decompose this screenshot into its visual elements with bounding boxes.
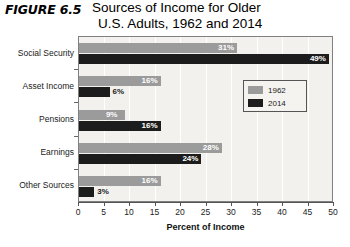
x-axis-tick-label: 40 bbox=[270, 207, 294, 217]
y-axis-label-asset-income: Asset Income bbox=[0, 81, 74, 91]
bar-1962-social-security[interactable] bbox=[79, 43, 237, 53]
y-axis-category-labels: Social SecurityAsset IncomePensionsEarni… bbox=[0, 36, 76, 202]
bar-value-label: 24% bbox=[182, 154, 198, 164]
bar-group: 16%3% bbox=[79, 176, 332, 199]
x-axis-tick bbox=[206, 202, 207, 206]
x-axis-tick bbox=[129, 202, 130, 206]
bar-value-label: 3% bbox=[97, 187, 109, 197]
figure-title-line-2: U.S. Adults, 1962 and 2014 bbox=[98, 16, 342, 32]
bar-2014-social-security[interactable] bbox=[79, 54, 329, 64]
x-axis-tick bbox=[78, 202, 79, 206]
x-axis-tick bbox=[308, 202, 309, 206]
x-axis-tick-label: 5 bbox=[92, 207, 116, 217]
bars-container: 31%49%16%6%9%16%28%24%16%3% bbox=[79, 37, 332, 201]
chart-legend: 1962 2014 bbox=[243, 80, 307, 112]
legend-label-2014: 2014 bbox=[268, 99, 286, 108]
bar-value-label: 16% bbox=[142, 76, 158, 86]
bar-value-label: 16% bbox=[142, 121, 158, 131]
x-axis-tick-label: 35 bbox=[245, 207, 269, 217]
legend-item-2014: 2014 bbox=[248, 97, 306, 109]
x-axis-tick bbox=[231, 202, 232, 206]
x-axis-tick bbox=[257, 202, 258, 206]
bar-group: 28%24% bbox=[79, 143, 332, 166]
y-axis-label-social-security: Social Security bbox=[0, 48, 74, 58]
x-axis-tick bbox=[333, 202, 334, 206]
chart-plot-area: 31%49%16%6%9%16%28%24%16%3% bbox=[78, 36, 333, 202]
x-axis-tick-label: 50 bbox=[321, 207, 345, 217]
y-axis-label-other-sources: Other Sources bbox=[0, 180, 74, 190]
bar-value-label: 16% bbox=[142, 176, 158, 186]
bar-value-label: 49% bbox=[310, 54, 326, 64]
y-axis-label-earnings: Earnings bbox=[0, 147, 74, 157]
gridline bbox=[333, 37, 334, 201]
bar-2014-other-sources[interactable] bbox=[79, 187, 94, 197]
x-axis-tick-label: 20 bbox=[168, 207, 192, 217]
x-axis-tick-label: 30 bbox=[219, 207, 243, 217]
y-axis-label-pensions: Pensions bbox=[0, 114, 74, 124]
x-axis-title: Percent of Income bbox=[78, 222, 333, 232]
legend-swatch-icon-2014 bbox=[248, 99, 263, 107]
x-axis-tick-label: 10 bbox=[117, 207, 141, 217]
page-title: Sources of Income for Older U.S. Adults,… bbox=[92, 0, 342, 32]
figure-header: FIGURE 6.5 Sources of Income for Older U… bbox=[0, 0, 350, 34]
bar-2014-asset-income[interactable] bbox=[79, 87, 110, 97]
bar-value-label: 31% bbox=[218, 43, 234, 53]
figure-number-label: FIGURE 6.5 bbox=[5, 2, 81, 17]
x-axis-tick bbox=[155, 202, 156, 206]
bar-group: 9%16% bbox=[79, 110, 332, 133]
figure-title-line-1: Sources of Income for Older bbox=[92, 0, 342, 16]
x-axis-tick-label: 15 bbox=[143, 207, 167, 217]
legend-swatch-icon-1962 bbox=[248, 86, 263, 94]
bar-value-label: 9% bbox=[106, 110, 118, 120]
x-axis-tick-label: 25 bbox=[194, 207, 218, 217]
bar-1962-pensions[interactable] bbox=[79, 110, 125, 120]
x-axis-tick-label: 45 bbox=[296, 207, 320, 217]
x-axis-tick bbox=[180, 202, 181, 206]
bar-value-label: 28% bbox=[203, 143, 219, 153]
legend-item-1962: 1962 bbox=[248, 84, 306, 96]
bar-group: 31%49% bbox=[79, 43, 332, 66]
x-axis-tick bbox=[282, 202, 283, 206]
x-axis-tick-label: 0 bbox=[66, 207, 90, 217]
x-axis-tick bbox=[104, 202, 105, 206]
bar-value-label: 6% bbox=[113, 87, 125, 97]
bar-1962-earnings[interactable] bbox=[79, 143, 222, 153]
legend-label-1962: 1962 bbox=[268, 86, 286, 95]
